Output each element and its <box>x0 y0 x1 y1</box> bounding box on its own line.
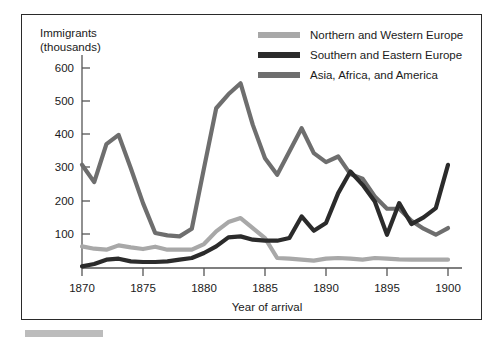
legend-label-northern-western-europe: Northern and Western Europe <box>310 29 463 41</box>
x-tick-1900: 1900 <box>435 282 461 294</box>
x-axis-ticks <box>82 268 448 276</box>
chart-figure-frame: Immigrants (thousands) 100 200 300 400 5… <box>21 14 482 320</box>
y-tick-200: 200 <box>55 195 74 207</box>
x-tick-1870: 1870 <box>69 282 95 294</box>
y-tick-400: 400 <box>55 128 74 140</box>
x-tick-1890: 1890 <box>313 282 339 294</box>
y-tick-100: 100 <box>55 228 74 240</box>
chart-legend: Northern and Western Europe Southern and… <box>258 29 463 81</box>
footer-gray-bar <box>25 330 103 337</box>
y-axis-title-line1: Immigrants <box>40 27 97 39</box>
y-tick-300: 300 <box>55 161 74 173</box>
legend-swatch-northern-western-europe <box>258 32 300 38</box>
legend-swatch-asia-africa-america <box>258 72 300 78</box>
x-axis-title: Year of arrival <box>232 301 303 313</box>
legend-label-asia-africa-america: Asia, Africa, and America <box>310 69 438 81</box>
x-tick-1885: 1885 <box>252 282 278 294</box>
y-axis-ticks <box>82 68 90 234</box>
x-tick-1895: 1895 <box>374 282 400 294</box>
immigration-line-chart: Immigrants (thousands) 100 200 300 400 5… <box>22 15 480 318</box>
y-tick-600: 600 <box>55 62 74 74</box>
y-tick-500: 500 <box>55 95 74 107</box>
x-tick-1875: 1875 <box>130 282 156 294</box>
legend-swatch-southern-eastern-europe <box>258 52 300 58</box>
y-axis-title-line2: (thousands) <box>40 41 101 53</box>
legend-label-southern-eastern-europe: Southern and Eastern Europe <box>310 49 462 61</box>
x-tick-1880: 1880 <box>191 282 217 294</box>
